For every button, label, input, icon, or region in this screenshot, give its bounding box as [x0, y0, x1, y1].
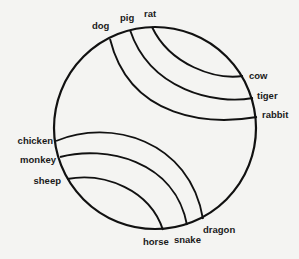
chord-monkey-snake	[60, 153, 187, 225]
label-tiger: tiger	[257, 90, 278, 101]
zodiac-chord-diagram: dogpigratcowtigerrabbitchickenmonkeyshee…	[0, 0, 299, 259]
label-rat: rat	[144, 8, 157, 19]
label-pig: pig	[120, 12, 134, 23]
label-cow: cow	[249, 70, 268, 81]
label-chicken: chicken	[18, 135, 54, 146]
chord-sheep-horse	[67, 178, 163, 230]
label-sheep: sheep	[34, 175, 62, 186]
label-monkey: monkey	[20, 154, 57, 165]
label-rabbit: rabbit	[262, 109, 289, 120]
label-dog: dog	[92, 20, 110, 31]
label-dragon: dragon	[203, 224, 235, 235]
chord-dog-rabbit	[110, 39, 257, 120]
chord-rat-cow	[152, 27, 243, 77]
label-snake: snake	[174, 234, 201, 245]
label-horse: horse	[143, 236, 169, 247]
outer-circle	[54, 27, 256, 229]
